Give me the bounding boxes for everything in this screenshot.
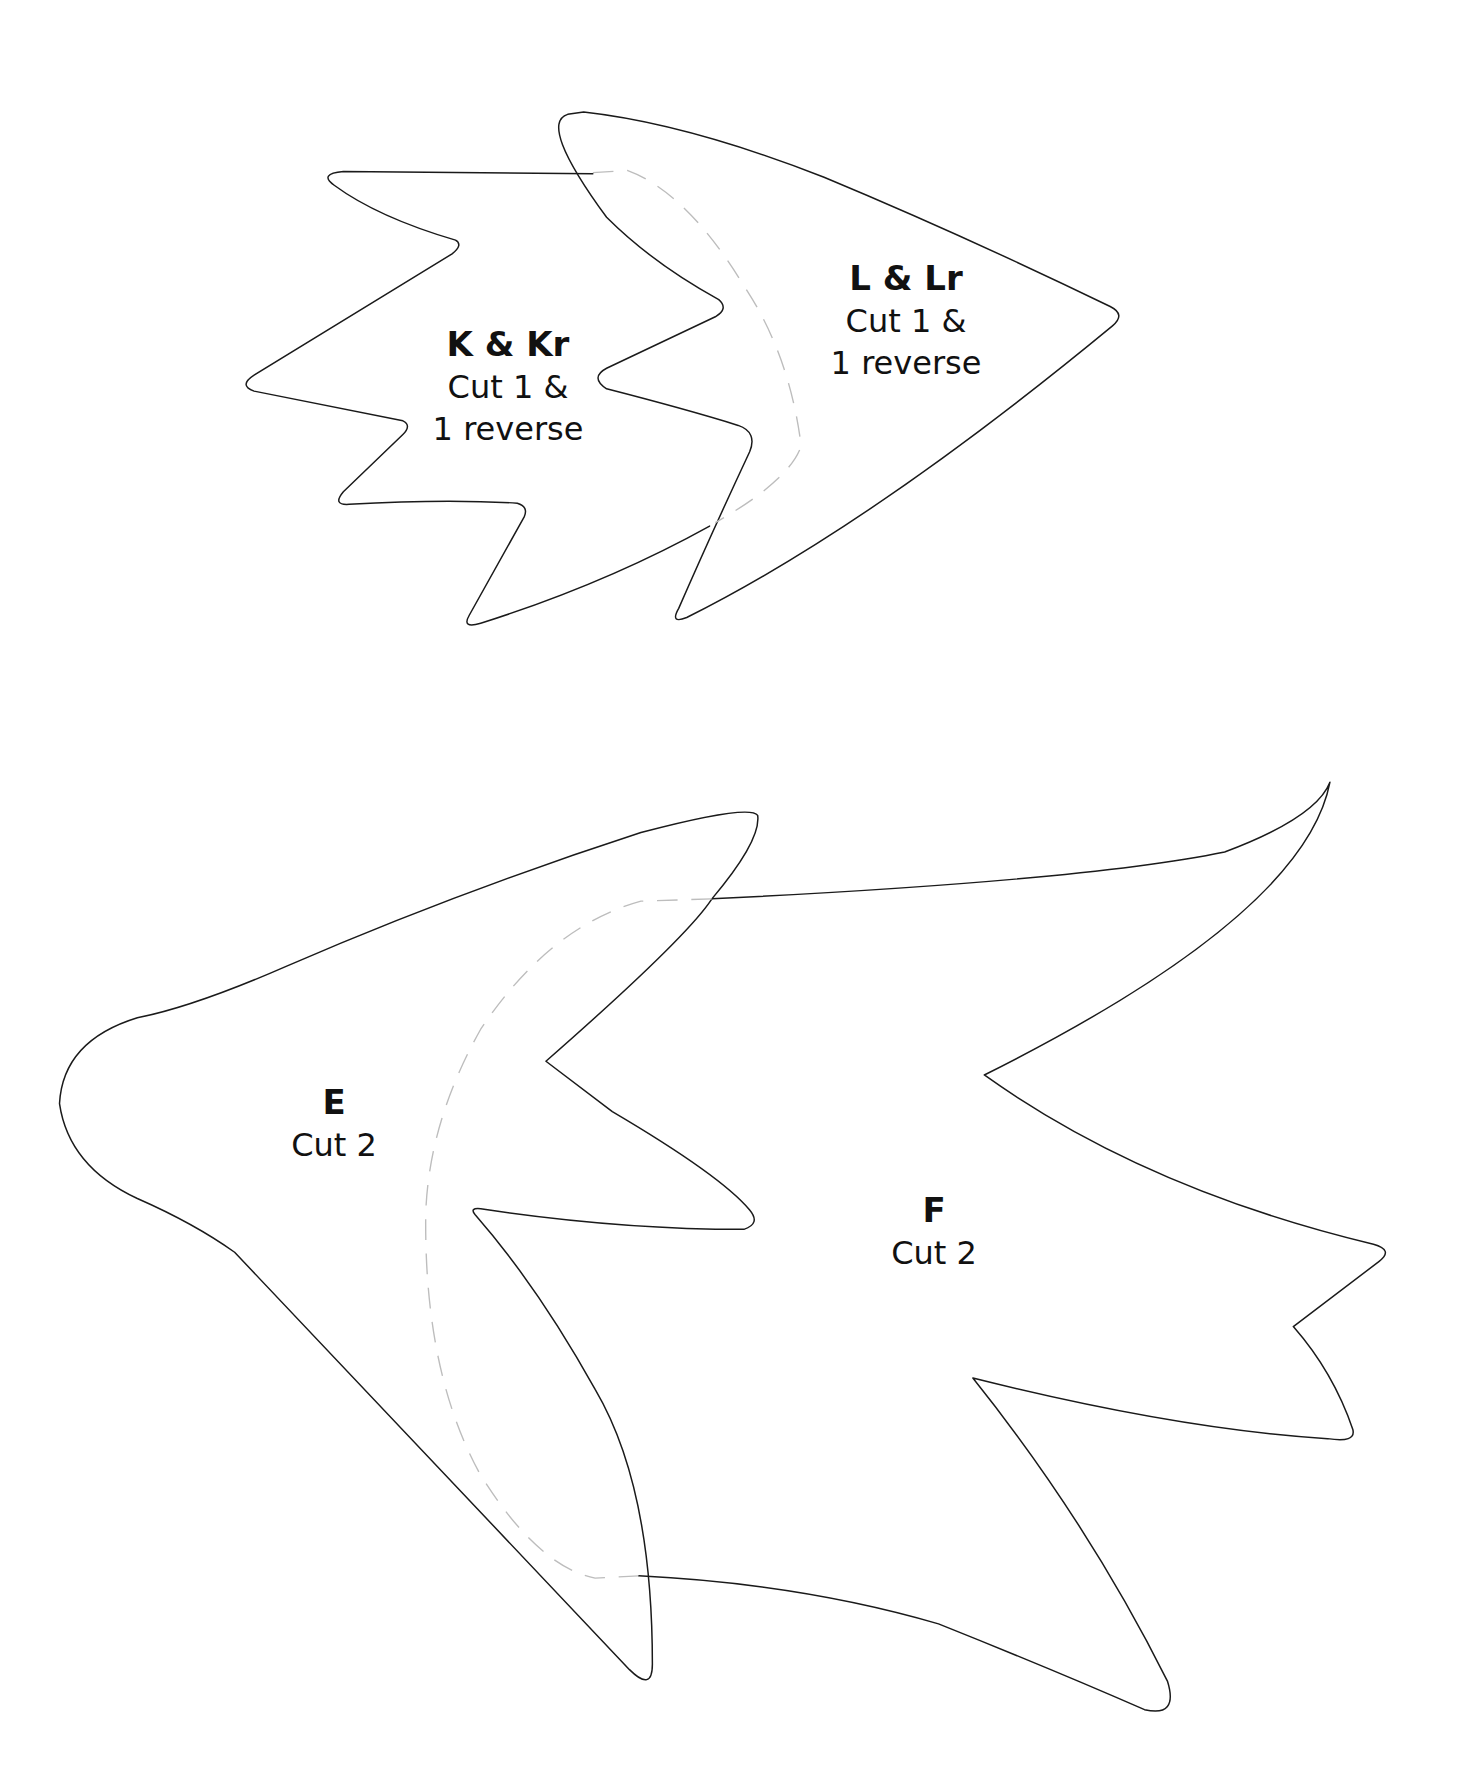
piece-f-outline bbox=[639, 782, 1386, 1711]
piece-e-label: E Cut 2 bbox=[291, 1080, 377, 1166]
piece-f-name: F bbox=[891, 1188, 977, 1232]
piece-l-instruction-2: 1 reverse bbox=[831, 342, 982, 384]
piece-e-name: E bbox=[291, 1080, 377, 1124]
piece-k-name: K & Kr bbox=[433, 322, 584, 366]
piece-k-label: K & Kr Cut 1 & 1 reverse bbox=[433, 322, 584, 450]
pattern-canvas bbox=[0, 0, 1465, 1784]
piece-e-instruction-1: Cut 2 bbox=[291, 1124, 377, 1166]
piece-k-instruction-2: 1 reverse bbox=[433, 408, 584, 450]
piece-kl-seam bbox=[593, 170, 801, 522]
piece-l-label: L & Lr Cut 1 & 1 reverse bbox=[831, 256, 982, 384]
piece-l-instruction-1: Cut 1 & bbox=[831, 300, 982, 342]
piece-ef-seam bbox=[426, 899, 712, 1578]
piece-f-label: F Cut 2 bbox=[891, 1188, 977, 1274]
piece-e-outline bbox=[60, 812, 758, 1680]
piece-f-instruction-1: Cut 2 bbox=[891, 1232, 977, 1274]
piece-l-name: L & Lr bbox=[831, 256, 982, 300]
piece-k-instruction-1: Cut 1 & bbox=[433, 366, 584, 408]
